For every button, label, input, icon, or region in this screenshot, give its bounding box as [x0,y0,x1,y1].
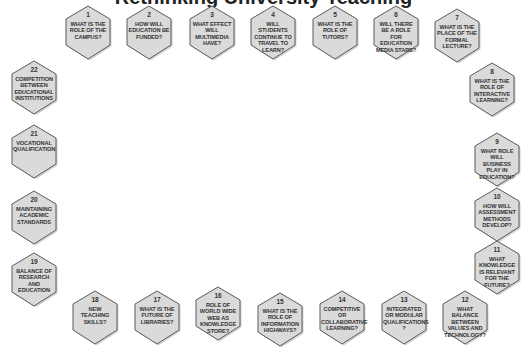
question-text: WHAT IS THE FUTURE OF LIBRARIES? [136,306,178,325]
question-hexagon: 13INTEGRATED OR MODULAR QUALIFICATIONS ? [380,290,428,346]
question-text: COMPETITION BETWEEN EDUCATIONAL INSTITUT… [13,76,55,102]
question-hexagon: 22COMPETITION BETWEEN EDUCATIONAL INSTIT… [10,60,58,116]
question-hexagon: 20MAINTAINING ACADEMIC STANDARDS [10,190,58,246]
question-number: 21 [10,130,58,137]
question-number: 4 [249,11,297,18]
question-number: 17 [133,296,181,303]
question-number: 15 [256,298,304,305]
question-number: 12 [441,296,489,303]
question-number: 7 [433,14,481,21]
question-number: 9 [473,138,521,145]
question-hexagon: 15WHAT IS THE ROLE OF INFORMATION HIGHWA… [256,292,304,348]
question-number: 6 [372,11,420,18]
question-number: 14 [318,296,366,303]
question-number: 11 [473,246,521,253]
question-text: WHAT IS THE ROLE OF INFORMATION HIGHWAYS… [259,308,301,334]
question-hexagon: 14COMPETITIVE OR COLLABORATIVE LEARNING? [318,290,366,346]
question-number: 10 [473,193,521,200]
question-number: 8 [468,68,516,75]
question-number: 20 [10,196,58,203]
question-text: VOCATIONAL QUALIFICATION [13,140,55,153]
question-hexagon: 5WHAT IS THE ROLE OF TUTORS? [311,5,359,61]
question-hexagon: 1WHAT IS THE ROLE OF THE CAMPUS? [64,5,112,61]
question-number: 5 [311,11,359,18]
question-text: WHAT IS THE ROLE OF INTERACTIVE LEARNING… [471,78,513,104]
question-text: WHAT KNOWLEDGE IS RELEVANT FOR THE FUTUR… [476,256,518,288]
question-hexagon: 21VOCATIONAL QUALIFICATION [10,124,58,180]
question-number: 16 [194,292,242,299]
question-text: WHAT ROLE WILL BUSINESS PLAY IN EDUCATIO… [476,148,518,180]
question-text: NEW TEACHING SKILLS? [74,306,116,325]
question-hexagon: 19BALANCE OF RESEARCH AND EDUCATION [10,252,58,308]
question-hexagon: 12WHAT BALANCE BETWEEN VALUES AND TECHNO… [441,290,489,346]
question-number: 2 [125,11,173,18]
question-text: WHAT IS THE ROLE OF THE CAMPUS? [67,21,109,40]
question-hexagon: 2HOW WILL EDUCATION BE FUNDED? [125,5,173,61]
question-hexagon: 7WHAT IS THE PLACE OF THE FORMAL LECTURE… [433,8,481,64]
question-text: BALANCE OF RESEARCH AND EDUCATION [13,268,55,294]
question-hexagon: 4WILL STUDENTS CONTINUE TO TRAVEL TO LEA… [249,5,297,61]
question-hexagon: 6WILL THERE BE A ROLE FOR EDUCATION MEDI… [372,5,420,61]
question-number: 13 [380,296,428,303]
question-text: ROLE OF WORLD WIDE WEB AS KNOWLEDGE STOR… [197,302,239,334]
question-hexagon: 3WHAT EFFECT WILL MULTIMEDIA HAVE? [188,5,236,61]
question-hexagon: 18NEW TEACHING SKILLS? [71,290,119,346]
question-number: 22 [10,66,58,73]
question-text: INTEGRATED OR MODULAR QUALIFICATIONS ? [383,306,425,332]
question-hexagon: 17WHAT IS THE FUTURE OF LIBRARIES? [133,290,181,346]
question-number: 1 [64,11,112,18]
question-text: WILL STUDENTS CONTINUE TO TRAVEL TO LEAR… [252,21,294,53]
question-hexagon: 8WHAT IS THE ROLE OF INTERACTIVE LEARNIN… [468,62,516,118]
question-text: HOW WILL EDUCATION BE FUNDED? [128,21,170,40]
question-text: WHAT IS THE PLACE OF THE FORMAL LECTURE? [436,24,478,50]
question-hexagon: 10HOW WILL ASSESSMENT METHODS DEVELOP? [473,187,521,243]
question-number: 18 [71,296,119,303]
question-text: WHAT EFFECT WILL MULTIMEDIA HAVE? [191,21,233,47]
question-number: 3 [188,11,236,18]
question-text: WHAT IS THE ROLE OF TUTORS? [314,21,356,40]
question-text: COMPETITIVE OR COLLABORATIVE LEARNING? [321,306,363,332]
question-hexagon: 16ROLE OF WORLD WIDE WEB AS KNOWLEDGE ST… [194,286,242,342]
question-hexagon: 9WHAT ROLE WILL BUSINESS PLAY IN EDUCATI… [473,132,521,188]
question-text: MAINTAINING ACADEMIC STANDARDS [13,206,55,225]
question-text: WHAT BALANCE BETWEEN VALUES AND TECHNOLO… [444,306,486,338]
question-text: WILL THERE BE A ROLE FOR EDUCATION MEDIA… [375,21,417,53]
question-text: HOW WILL ASSESSMENT METHODS DEVELOP? [476,203,518,229]
question-number: 19 [10,258,58,265]
question-hexagon: 11WHAT KNOWLEDGE IS RELEVANT FOR THE FUT… [473,240,521,296]
